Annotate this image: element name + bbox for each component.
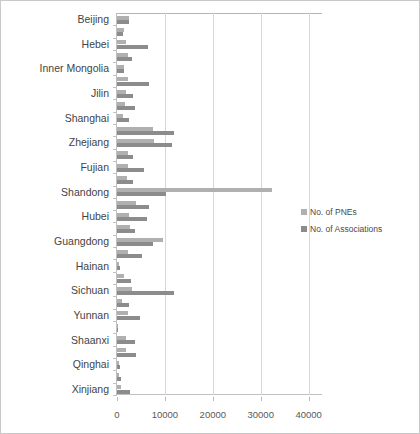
bar-associations-henan bbox=[117, 205, 149, 209]
bar-associations-guizhou bbox=[117, 303, 129, 307]
bar-associations-jilin bbox=[117, 94, 133, 98]
y-tick bbox=[113, 149, 117, 150]
bar-associations-sichuan bbox=[117, 291, 174, 295]
x-tick-40000 bbox=[309, 397, 310, 401]
bar-associations-gansu bbox=[117, 353, 136, 357]
y-tick bbox=[113, 296, 117, 297]
y-tick bbox=[113, 173, 117, 174]
bar-associations-xinjiang bbox=[117, 390, 130, 394]
x-tick-20000 bbox=[213, 397, 214, 401]
y-tick bbox=[113, 383, 117, 384]
bar-associations-hebei bbox=[117, 45, 148, 49]
x-axis-label-10000: 10000 bbox=[152, 409, 178, 420]
y-tick bbox=[113, 62, 117, 63]
y-tick bbox=[113, 136, 117, 137]
y-tick bbox=[113, 124, 117, 125]
y-axis-label-beijing: Beijing bbox=[1, 13, 109, 25]
y-tick bbox=[113, 235, 117, 236]
x-axis-label-40000: 40000 bbox=[295, 409, 321, 420]
legend-item-associations: No. of Associations bbox=[301, 222, 382, 236]
gridline-x-40000 bbox=[309, 13, 310, 395]
y-tick bbox=[113, 309, 117, 310]
y-tick bbox=[113, 222, 117, 223]
y-tick bbox=[113, 50, 117, 51]
bar-associations-tibet bbox=[117, 328, 118, 332]
chart-legend: No. of PNEs No. of Associations bbox=[301, 205, 382, 239]
bar-associations-inner-mongolia bbox=[117, 69, 124, 73]
y-axis-label-shandong: Shandong bbox=[1, 186, 109, 198]
y-tick bbox=[113, 395, 117, 396]
y-tick bbox=[113, 358, 117, 359]
bar-associations-qinghai bbox=[117, 365, 120, 369]
x-tick-0 bbox=[117, 397, 118, 401]
y-tick bbox=[113, 112, 117, 113]
gridline-x-30000 bbox=[261, 13, 262, 395]
bar-associations-shaanxi bbox=[117, 340, 135, 344]
bar-associations-hubei bbox=[117, 217, 147, 221]
x-tick-30000 bbox=[261, 397, 262, 401]
y-tick bbox=[113, 284, 117, 285]
legend-swatch-pnes bbox=[301, 209, 307, 215]
bar-associations-anhui bbox=[117, 155, 133, 159]
y-tick bbox=[113, 259, 117, 260]
bar-associations-jiangxi bbox=[117, 180, 133, 184]
bar-associations-guangxi bbox=[117, 254, 142, 258]
y-axis-label-shanghai: Shanghai bbox=[1, 112, 109, 124]
y-axis-label-xinjiang: Xinjiang bbox=[1, 383, 109, 395]
y-tick bbox=[113, 321, 117, 322]
x-axis-label-0: 0 bbox=[114, 409, 119, 420]
y-axis-label-sichuan: Sichuan bbox=[1, 284, 109, 296]
gridline-x-20000 bbox=[213, 13, 214, 395]
legend-label-associations: No. of Associations bbox=[310, 222, 382, 236]
bar-associations-shandong bbox=[117, 192, 166, 196]
y-tick bbox=[113, 272, 117, 273]
y-axis-label-qinghai: Qinghai bbox=[1, 358, 109, 370]
y-axis-label-jilin: Jilin bbox=[1, 87, 109, 99]
y-axis-label-hainan: Hainan bbox=[1, 260, 109, 272]
y-axis-label-inner-mongolia: Inner Mongolia bbox=[1, 62, 109, 74]
y-axis-label-shaanxi: Shaanxi bbox=[1, 334, 109, 346]
y-axis-label-yunnan: Yunnan bbox=[1, 309, 109, 321]
chart-container: 010000200003000040000 BeijingHebeiInner … bbox=[0, 0, 420, 434]
bar-associations-tianjin bbox=[117, 32, 123, 36]
y-tick bbox=[113, 210, 117, 211]
y-axis-label-guangdong: Guangdong bbox=[1, 235, 109, 247]
legend-swatch-associations bbox=[301, 226, 307, 232]
y-axis-label-hubei: Hubei bbox=[1, 210, 109, 222]
y-tick bbox=[113, 75, 117, 76]
y-tick bbox=[113, 161, 117, 162]
y-tick bbox=[113, 247, 117, 248]
y-axis-label-zhejiang: Zhejiang bbox=[1, 136, 109, 148]
y-tick bbox=[113, 333, 117, 334]
plot-area: 010000200003000040000 bbox=[116, 13, 322, 395]
y-tick bbox=[113, 370, 117, 371]
bar-associations-beijing bbox=[117, 20, 129, 24]
bar-associations-shanghai bbox=[117, 118, 129, 122]
bar-associations-ningxia bbox=[117, 377, 121, 381]
y-tick bbox=[113, 25, 117, 26]
bar-associations-chongqing bbox=[117, 279, 131, 283]
bar-associations-yunnan bbox=[117, 316, 140, 320]
bar-associations-fujian bbox=[117, 168, 144, 172]
y-tick bbox=[113, 99, 117, 100]
bar-associations-heilongjiang bbox=[117, 106, 135, 110]
y-tick bbox=[113, 346, 117, 347]
bar-associations-hunan bbox=[117, 229, 135, 233]
legend-item-pnes: No. of PNEs bbox=[301, 205, 382, 219]
y-axis-label-hebei: Hebei bbox=[1, 38, 109, 50]
y-tick bbox=[113, 38, 117, 39]
bar-associations-jiangsu bbox=[117, 131, 174, 135]
bar-associations-shanxi bbox=[117, 57, 132, 61]
x-tick-10000 bbox=[165, 397, 166, 401]
gridline-x-10000 bbox=[165, 13, 166, 395]
y-tick bbox=[113, 87, 117, 88]
y-tick bbox=[113, 198, 117, 199]
bar-associations-guangdong bbox=[117, 242, 153, 246]
y-axis-label-fujian: Fujian bbox=[1, 161, 109, 173]
bar-associations-zhejiang bbox=[117, 143, 172, 147]
x-axis-label-30000: 30000 bbox=[248, 409, 274, 420]
y-tick bbox=[113, 186, 117, 187]
bar-associations-hainan bbox=[117, 266, 120, 270]
legend-label-pnes: No. of PNEs bbox=[310, 205, 357, 219]
x-axis-label-20000: 20000 bbox=[200, 409, 226, 420]
